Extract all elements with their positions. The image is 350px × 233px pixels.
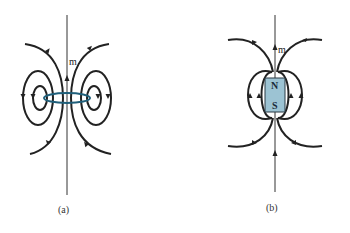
field-line bbox=[23, 71, 53, 125]
field-line bbox=[228, 118, 273, 147]
panel-a-current-loop: m (a) bbox=[21, 15, 112, 216]
moment-arrowhead-icon bbox=[65, 75, 70, 81]
field-line bbox=[228, 39, 273, 72]
south-pole-label: S bbox=[272, 100, 278, 111]
axis-arrowhead-icon bbox=[273, 150, 278, 156]
moment-arrowhead-icon bbox=[273, 44, 278, 50]
panel-caption: (a) bbox=[58, 204, 69, 216]
magnetic-dipole-figure: m (a) N S m (b) bbox=[0, 0, 350, 233]
moment-label: m bbox=[69, 56, 77, 67]
field-line bbox=[277, 118, 322, 147]
panel-caption: (b) bbox=[266, 202, 278, 214]
field-line bbox=[71, 44, 111, 154]
north-pole-label: N bbox=[271, 80, 279, 91]
field-line bbox=[81, 71, 111, 125]
diagram-canvas: m (a) N S m (b) bbox=[0, 0, 350, 233]
moment-label: m bbox=[278, 44, 286, 55]
panel-b-bar-magnet: N S m (b) bbox=[228, 15, 322, 214]
